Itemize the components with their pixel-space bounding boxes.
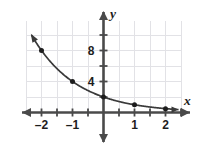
x-tick-label: 2 [162,118,169,132]
tick-marks [42,35,182,117]
x-axis-label: x [183,93,191,108]
y-axis-label: y [108,6,117,21]
coordinate-plane-svg: –2–11248 x y [0,0,198,150]
y-tick-label: 4 [88,75,95,89]
exponential-decay-graph-figure: –2–11248 x y [0,0,198,150]
x-tick-label: 1 [131,118,138,132]
x-tick-label: –2 [35,118,49,132]
tick-labels: –2–11248 [35,44,169,132]
y-tick-label: 8 [88,44,95,58]
x-tick-label: –1 [66,118,80,132]
